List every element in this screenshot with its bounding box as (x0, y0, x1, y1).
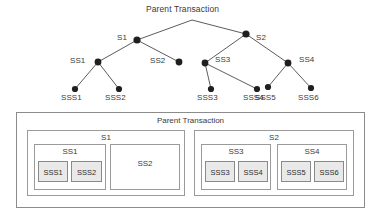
transaction-tree-graphic (0, 0, 383, 110)
edge-root-s2 (192, 20, 246, 34)
tree-label-ss2: SS2 (150, 56, 165, 65)
containment-leaf-sss1: SSS1 (38, 161, 68, 182)
node-sss5 (265, 84, 271, 90)
edge-ss1-sss1 (75, 62, 98, 89)
edge-ss4-sss6 (288, 63, 311, 88)
containment-leaf-sss3: SSS3 (205, 161, 235, 182)
containment-leaf-sss6-title: SSS6 (315, 167, 343, 176)
tree-label-sss5: SSS5 (255, 93, 276, 102)
containment-subgroup-ss3-title: SS3 (202, 147, 270, 156)
tree-label-sss3: SSS3 (197, 93, 218, 102)
node-ss4 (285, 60, 292, 67)
edge-ss4-sss5 (268, 63, 288, 87)
node-sss2 (116, 86, 122, 92)
containment-leaf-sss2: SSS2 (71, 161, 102, 182)
containment-leaf-sss1-title: SSS1 (39, 167, 67, 176)
tree-label-s2: S2 (256, 33, 266, 42)
node-sss6 (308, 85, 314, 91)
edge-root-s1 (137, 20, 192, 40)
tree-label-sss6: SSS6 (298, 93, 319, 102)
edge-s2-ss4 (246, 34, 288, 63)
node-sss1 (72, 86, 78, 92)
tree-label-root: Parent Transaction (146, 4, 219, 14)
node-ss2 (176, 59, 183, 66)
containment-leaf-sss5: SSS5 (281, 161, 311, 182)
containment-subgroup-ss4-title: SS4 (278, 147, 346, 156)
tree-label-s1: S1 (117, 33, 127, 42)
node-ss3 (202, 60, 209, 67)
tree-nodes (72, 30, 314, 92)
node-s1 (133, 36, 140, 43)
node-ss1 (95, 59, 102, 66)
edge-ss3-sss3 (205, 63, 211, 89)
edge-ss3-sss4 (205, 63, 257, 89)
containment-group-s2-title: S2 (195, 133, 353, 142)
containment-leaf-sss2-title: SSS2 (72, 167, 101, 176)
containment-subgroup-ss2: SS2 (110, 144, 180, 190)
tree-label-ss1: SS1 (70, 56, 85, 65)
node-sss4 (254, 86, 260, 92)
edge-s1-ss1 (98, 40, 137, 62)
containment-subgroup-ss1-title: SS1 (35, 147, 105, 156)
tree-edges (75, 20, 311, 89)
tree-label-sss1: SSS1 (61, 93, 82, 102)
containment-group-s1-title: S1 (28, 133, 184, 142)
tree-label-ss3: SS3 (215, 55, 230, 64)
node-sss3 (208, 86, 214, 92)
node-s2 (242, 30, 249, 37)
containment-leaf-sss3-title: SSS3 (206, 167, 234, 176)
containment-outer-title: Parent Transaction (17, 116, 364, 125)
containment-leaf-sss6: SSS6 (314, 161, 344, 182)
containment-leaf-sss4-title: SSS4 (239, 167, 267, 176)
containment-subgroup-ss2-title: SS2 (111, 159, 179, 168)
edge-ss1-sss2 (98, 62, 119, 89)
containment-leaf-sss5-title: SSS5 (282, 167, 310, 176)
tree-label-ss4: SS4 (299, 55, 314, 64)
diagram-canvas: Parent Transaction S1 S2 SS1 SS2 SS3 SS4… (0, 0, 383, 217)
tree-label-sss2: SSS2 (105, 93, 126, 102)
containment-leaf-sss4: SSS4 (238, 161, 268, 182)
